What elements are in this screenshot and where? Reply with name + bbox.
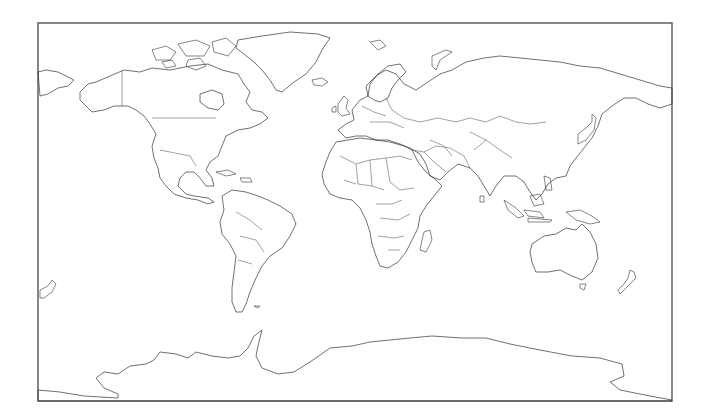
world-map xyxy=(0,0,706,416)
map-frame xyxy=(38,23,672,401)
